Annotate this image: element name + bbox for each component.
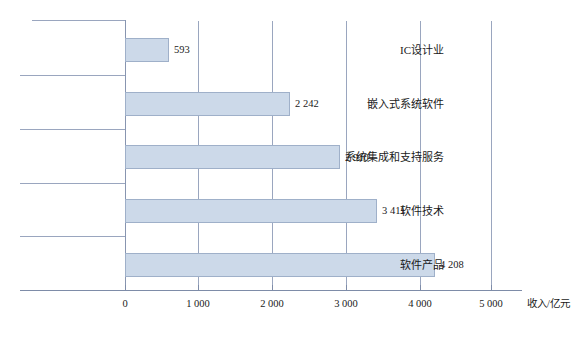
category-label-software-technology: 软件技术 [400, 205, 444, 218]
x-tick-3000 [346, 285, 347, 291]
x-tick-5000 [491, 285, 492, 291]
x-tick-2000 [272, 285, 273, 291]
value-label-software-products: 4 208 [440, 259, 464, 271]
x-tick-label-4000: 4 000 [408, 297, 432, 310]
bar-embedded-software[interactable] [125, 92, 290, 116]
x-tick-4000 [420, 285, 421, 291]
category-separator [20, 129, 125, 130]
gridline-5000 [491, 21, 492, 290]
plot-area: IC设计业 嵌入式系统软件 系统集成和支持服务 软件技术 软件产品 593 2 … [0, 0, 573, 340]
value-label-embedded-software: 2 242 [295, 98, 319, 110]
bar-ic-design[interactable] [125, 38, 169, 62]
x-axis-line [20, 290, 522, 291]
x-tick-label-1000: 1 000 [186, 297, 210, 310]
x-tick-1000 [198, 285, 199, 291]
category-label-embedded-software: 嵌入式系统软件 [367, 98, 444, 111]
value-label-ic-design: 593 [174, 44, 190, 56]
x-tick-label-5000: 5 000 [479, 297, 503, 310]
category-label-ic-design: IC设计业 [400, 44, 444, 57]
category-separator [20, 75, 125, 76]
x-tick-label-3000: 3 000 [334, 297, 358, 310]
x-tick-0 [125, 285, 126, 291]
category-label-software-products: 软件产品 [400, 259, 444, 272]
value-label-system-integration: 2 910 [345, 152, 369, 164]
x-tick-label-0: 0 [122, 297, 127, 310]
bar-software-technology[interactable] [125, 199, 377, 223]
value-label-software-technology: 3 411 [382, 205, 405, 217]
bar-software-products[interactable] [125, 253, 435, 277]
x-tick-label-2000: 2 000 [260, 297, 284, 310]
category-separator-top [32, 20, 125, 21]
bar-chart: IC设计业 嵌入式系统软件 系统集成和支持服务 软件技术 软件产品 593 2 … [0, 0, 573, 340]
x-axis-title: 收入/亿元 [527, 297, 570, 310]
category-separator [20, 183, 125, 184]
category-separator [20, 236, 125, 237]
bar-system-integration[interactable] [125, 145, 340, 169]
